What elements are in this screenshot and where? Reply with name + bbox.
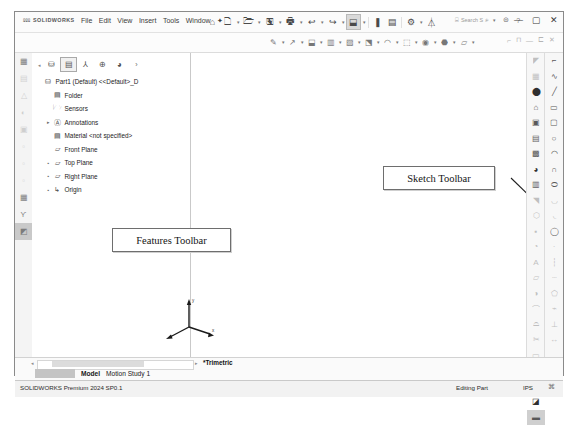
point-icon[interactable]: ▪ — [527, 224, 545, 240]
smart-dimension-icon[interactable]: ↗ — [286, 34, 299, 50]
tree-expand-toggle[interactable]: ▪ — [45, 160, 52, 166]
appearances-icon[interactable]: ◐ — [15, 104, 32, 121]
display-style-icon[interactable]: ▩ — [527, 146, 545, 162]
curve-icon[interactable]: ⌒ — [527, 301, 545, 317]
section-view-icon[interactable]: ◩ — [15, 223, 32, 240]
select-icon[interactable]: ⬓ — [346, 14, 361, 30]
arc-icon[interactable]: ◠ — [545, 146, 563, 162]
property-manager-tab[interactable]: ▤ — [60, 57, 77, 72]
redo-icon[interactable]: ↪ — [325, 14, 340, 30]
tree-item-history-folder[interactable]: ▤Folder — [45, 89, 188, 103]
dot-entity-icon[interactable]: · — [545, 239, 563, 255]
tab-motion-study[interactable]: Motion Study 1 — [106, 369, 150, 378]
minimize-button[interactable]: — — [514, 15, 523, 25]
sketch-mode-icon[interactable]: ⬤ — [527, 84, 545, 100]
brand-logo[interactable]: ⅏ SOLIDWORKS — [23, 16, 75, 23]
three-point-arc-icon[interactable]: ∩ — [545, 162, 563, 178]
circle-icon[interactable]: ○ — [545, 131, 563, 147]
plane-tool-icon[interactable]: ▱ — [527, 270, 545, 286]
centerline-icon[interactable]: ┆ — [545, 255, 563, 271]
corner-rectangle-icon[interactable]: ⌐ — [545, 53, 563, 69]
new-document-icon[interactable]: 🗋 — [220, 14, 235, 30]
tree-item-part1[interactable]: ⛁Part1 (Default) <<Default>_D — [36, 75, 188, 89]
line-icon[interactable]: ╱ — [545, 84, 563, 100]
sketch-spline-icon[interactable]: Ƴ — [15, 206, 32, 223]
search-input[interactable]: Search S — [461, 17, 483, 23]
extrude-boss-icon[interactable]: ⬓ — [305, 34, 318, 50]
select-arrow-icon[interactable]: ◤ — [527, 53, 545, 69]
grid-snap-icon[interactable]: ▦ — [527, 69, 545, 85]
conic-icon[interactable]: ◟ — [545, 208, 563, 224]
select-pointer-icon[interactable]: ◥ — [527, 193, 545, 209]
dimxpert-tab[interactable]: ⊕ — [94, 57, 111, 72]
tree-item-top-plane[interactable]: ▪▱Top Plane — [45, 156, 188, 170]
print-icon[interactable]: 🖶 — [283, 14, 298, 30]
open-document-icon[interactable]: 🗁 — [241, 14, 256, 30]
help-globe-icon[interactable]: ⊜ — [503, 16, 509, 24]
configuration-manager-tab[interactable]: ⅄ — [77, 57, 94, 72]
circle-centerpoint-icon[interactable]: ◯ — [545, 224, 563, 240]
search-box[interactable]: ⌸ Search S ⌕ ▾ ⊜ ? — [455, 16, 520, 24]
blank-tool2-icon[interactable]: ▫ — [15, 155, 32, 172]
expand-tab-icon[interactable]: › — [128, 57, 145, 72]
tab-model[interactable]: Model — [81, 369, 100, 378]
tree-item-sensors[interactable]: 🗁Sensors — [45, 102, 188, 116]
doc-window-control-4[interactable]: ✕ — [549, 36, 555, 44]
fillet-icon[interactable]: ◠ — [381, 34, 394, 50]
tree-item-material[interactable]: ▤Material <not specified> — [45, 129, 188, 143]
parabola-icon[interactable]: ◡ — [545, 193, 563, 209]
tree-item-right-plane[interactable]: ▪▱Right Plane — [45, 170, 188, 184]
ellipse-icon[interactable]: ⬭ — [545, 177, 563, 193]
swept-boss-icon[interactable]: ▨ — [343, 34, 356, 50]
isometric-view-icon[interactable]: ▣ — [527, 115, 545, 131]
options-grid-icon[interactable]: ▤ — [385, 14, 400, 30]
menu-item-file[interactable]: File — [81, 16, 92, 26]
scroll-right-icon[interactable]: ▸ — [195, 360, 198, 366]
doc-window-control-2[interactable]: — — [526, 37, 533, 44]
view-palette-icon[interactable]: △ — [15, 87, 32, 104]
trim-icon[interactable]: ✂ — [527, 332, 545, 348]
midpoint-line-icon[interactable]: ┄ — [545, 270, 563, 286]
sketch-relation-icon[interactable]: ⊥ — [545, 317, 563, 333]
search-caret-icon[interactable]: ▾ — [491, 17, 497, 23]
mirror-entities-icon[interactable]: ◑ — [527, 286, 545, 302]
doc-window-control-1[interactable]: ⊓ — [516, 36, 521, 44]
home-view-icon[interactable]: ⌂ — [527, 100, 545, 116]
sketch-picture-icon[interactable]: ▬ — [527, 410, 545, 425]
settings-gear-icon[interactable]: ⚙ — [403, 14, 418, 30]
collapse-tree-icon[interactable]: ◂ — [38, 62, 41, 68]
hex-polygon-icon[interactable]: ⬡ — [527, 208, 545, 224]
spline-icon[interactable]: ∿ — [545, 69, 563, 85]
draft-icon[interactable]: ⬣ — [438, 34, 451, 50]
tree-item-origin[interactable]: ▪↳Origin — [45, 183, 188, 197]
close-button[interactable]: ✕ — [550, 15, 558, 25]
feature-tree-tab[interactable]: ⛁ — [43, 57, 60, 72]
rectangle-icon[interactable]: ▭ — [545, 100, 563, 116]
section-view-icon[interactable]: ▤ — [527, 131, 545, 147]
maximize-button[interactable]: ▢ — [532, 15, 541, 25]
tree-expand-toggle[interactable]: ▪ — [45, 173, 52, 179]
slot-icon[interactable]: ▢ — [545, 115, 563, 131]
status-options-icon[interactable]: ⌘ — [548, 383, 555, 391]
save-icon[interactable]: 🖫 — [262, 14, 277, 30]
assembly-icon[interactable]: ▦ — [15, 189, 32, 206]
rib-icon[interactable]: ◉ — [419, 34, 432, 50]
display-manager-tab[interactable]: ◕ — [111, 57, 128, 72]
home-icon[interactable]: ⌂ — [205, 14, 220, 30]
graphics-area[interactable]: y x Features Toolbar Sketch Toolbar — [191, 53, 527, 357]
user-account-icon[interactable]: ⏃ — [424, 14, 439, 30]
design-library-icon[interactable]: ▦ — [15, 53, 32, 70]
doc-window-control-3[interactable]: ⊏ — [538, 36, 544, 44]
polygon-icon[interactable]: ⬠ — [545, 286, 563, 302]
blank-tool3-icon[interactable]: ▫ — [15, 172, 32, 189]
linear-pattern-icon[interactable]: ⬚ — [400, 34, 413, 50]
revolve-boss-icon[interactable]: ▥ — [324, 34, 337, 50]
rebuild-icon[interactable]: ❚ — [370, 14, 385, 30]
tree-item-annotations[interactable]: ▸ⒶAnnotations — [45, 116, 188, 130]
scene-icon[interactable]: ▥ — [527, 177, 545, 193]
menu-item-tools[interactable]: Tools — [163, 16, 179, 26]
offset-icon[interactable]: ⌓ — [527, 317, 545, 333]
menu-item-insert[interactable]: Insert — [139, 16, 157, 26]
smart-dimension-icon[interactable]: ↔ — [545, 332, 563, 348]
menu-item-view[interactable]: View — [117, 16, 132, 26]
